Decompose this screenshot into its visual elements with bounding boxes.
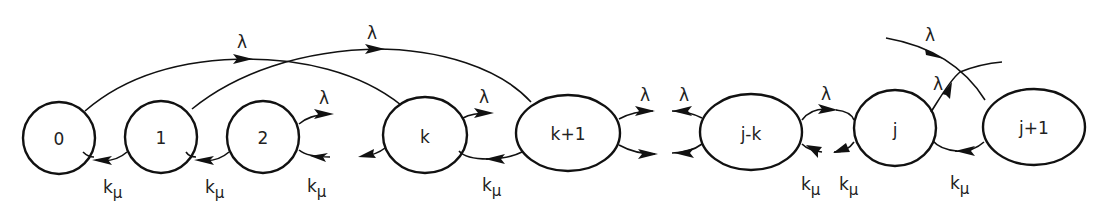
state-label: 1 [156,128,167,148]
lambda-label: λ [319,88,329,108]
edge-k+1-out-right-upper: λ [619,85,655,119]
lambda-label: λ [933,74,943,94]
service-rate-label-j-out: kμ [839,174,859,199]
state-label: 2 [258,128,269,148]
k-symbol: k [839,174,849,194]
arrow-head-icon [635,106,655,116]
service-rate-label-into-2: kμ [307,176,327,201]
svg-text:kμ: kμ [801,174,821,199]
svg-text:kμ: kμ [839,174,859,199]
state-node-j: j [854,90,936,166]
mu-symbol: μ [317,183,327,201]
k-symbol: k [950,173,960,193]
arrow-head-icon [833,143,850,153]
arrow-head-icon [942,82,952,99]
mu-symbol: μ [215,184,225,202]
service-rate-label-2-1: kμ [205,177,225,202]
edge-k+1-out-right-lower [619,145,658,159]
edge-j-k-out-left-lower [672,144,702,158]
state-node-0: 0 [23,102,95,174]
mu-symbol: μ [849,181,859,199]
lambda-label: λ [237,32,247,52]
state-label: k [420,127,430,147]
edge-j-k-to-j: λ [802,84,854,120]
edge-2-out-right: λ [299,88,334,124]
edge-k+1-to-k [459,151,522,164]
k-symbol: k [103,177,113,197]
edge-j+1-to-j [933,141,984,156]
svg-text:kμ: kμ [482,175,502,200]
svg-text:kμ: kμ [307,176,327,201]
mu-symbol: μ [960,180,970,198]
lambda-label: λ [479,87,489,107]
arrow-head-icon [672,106,692,116]
svg-text:kμ: kμ [950,173,970,198]
edge-k-out-left [358,148,385,158]
k-symbol: k [482,175,492,195]
state-node-2: 2 [227,101,299,173]
edge-into-2 [299,150,330,162]
arrow-head-icon [638,149,658,159]
arrow-head-icon [955,146,975,156]
lambda-label: λ [640,85,650,105]
state-label: j-k [740,124,762,144]
state-node-k-plus-1: k+1 [516,95,620,171]
arrow-head-icon [314,109,334,119]
edge-j-k-out-left-upper: λ [672,85,702,118]
lambda-label: λ [367,23,377,43]
k-symbol: k [307,176,317,196]
edge-into-j-k [802,144,822,158]
edge-k-out-right: λ [463,87,494,118]
state-label: 0 [54,129,65,149]
edge-j-out-left-lower [833,142,854,153]
lambda-label: λ [821,84,831,104]
mu-symbol: μ [113,184,123,202]
service-rate-label-into-j-k: kμ [801,174,821,199]
arc-0-to-k: λ [85,32,401,111]
state-node-k: k [383,97,467,173]
arrow-head-icon [674,148,694,158]
mu-symbol: μ [492,182,502,200]
k-symbol: k [205,177,215,197]
state-node-j-minus-k: j-k [700,94,802,170]
state-node-j-plus-1: j+1 [983,89,1085,165]
state-label: j [892,120,898,140]
service-rate-label-1-0: kμ [103,177,123,202]
state-label: j+1 [1018,118,1049,138]
svg-text:kμ: kμ [205,177,225,202]
state-label: k+1 [551,124,586,144]
state-node-1: 1 [125,101,197,173]
mu-symbol: μ [811,181,821,199]
service-rate-label-j+1-j: kμ [950,173,970,198]
state-transition-diagram: λ λ 0 1 2 k k+1 j-k j j+1 [0,0,1112,216]
lambda-label: λ [679,85,689,105]
service-rate-label-k+1-k: kμ [482,175,502,200]
k-symbol: k [801,174,811,194]
svg-text:kμ: kμ [103,177,123,202]
lambda-label: λ [925,25,935,45]
